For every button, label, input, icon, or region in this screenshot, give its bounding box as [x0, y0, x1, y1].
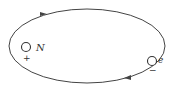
- nucleus-charge: +: [23, 53, 31, 63]
- nucleus-circle: [22, 43, 31, 52]
- electron-label: e: [158, 55, 163, 65]
- orbit-arrow-bottom-icon: [124, 75, 131, 80]
- atom-diagram: N + e −: [0, 0, 172, 91]
- electron-charge: −: [149, 65, 157, 75]
- orbit-ellipse: [9, 9, 165, 83]
- nucleus-label: N: [35, 42, 46, 53]
